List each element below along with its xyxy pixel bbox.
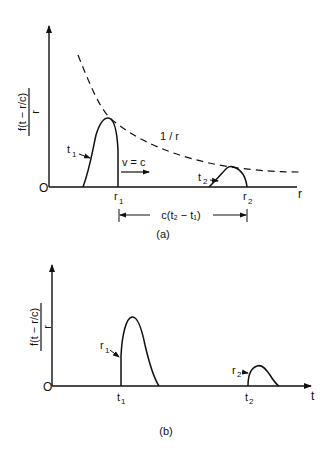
t2-tick-label: t 2 bbox=[245, 391, 254, 406]
svg-text:1: 1 bbox=[121, 397, 126, 406]
svg-text:r: r bbox=[232, 364, 236, 376]
panel-b: f(t − r/c) r O t r 1 t 1 r 2 t 2 (b) bbox=[28, 265, 315, 437]
svg-text:2: 2 bbox=[237, 370, 242, 379]
velocity-label: v = c bbox=[122, 156, 146, 168]
svg-text:1: 1 bbox=[105, 346, 110, 355]
panel-a-caption: (a) bbox=[156, 228, 169, 240]
svg-text:1: 1 bbox=[72, 150, 77, 159]
pulse-b2 bbox=[248, 366, 279, 386]
pulse-a2 bbox=[209, 166, 247, 187]
svg-text:t: t bbox=[198, 171, 201, 183]
panel-b-x-label: t bbox=[311, 389, 315, 403]
svg-text:f(t − r/c): f(t − r/c) bbox=[16, 93, 28, 131]
pulse-a1 bbox=[83, 118, 118, 187]
svg-text:r: r bbox=[100, 339, 104, 351]
panel-a-y-label: f(t − r/c) r bbox=[16, 88, 41, 136]
svg-text:2: 2 bbox=[203, 177, 208, 186]
r2-tick-label: r 2 bbox=[243, 190, 253, 206]
pulse-a1-time-label: t 1 bbox=[67, 143, 90, 159]
inverse-r-envelope bbox=[78, 55, 300, 172]
panel-b-y-label: f(t − r/c) r bbox=[28, 303, 53, 351]
svg-text:2: 2 bbox=[249, 397, 254, 406]
svg-text:t: t bbox=[117, 391, 120, 403]
envelope-label: 1 / r bbox=[160, 130, 179, 142]
svg-text:c(t₂ − t₁): c(t₂ − t₁) bbox=[161, 209, 200, 221]
panel-a-x-label: r bbox=[298, 187, 302, 201]
svg-text:f(t − r/c): f(t − r/c) bbox=[28, 308, 40, 346]
pulse-b1 bbox=[121, 317, 159, 386]
pulse-a2-time-label: t 2 bbox=[198, 171, 218, 186]
panel-a-origin-label: O bbox=[39, 181, 48, 195]
svg-text:2: 2 bbox=[248, 197, 253, 206]
svg-text:1: 1 bbox=[119, 197, 124, 206]
svg-text:r: r bbox=[41, 325, 53, 329]
panel-b-caption: (b) bbox=[159, 425, 172, 437]
pulse-b2-position-label: r 2 bbox=[232, 364, 248, 379]
wave-propagation-diagram: f(t − r/c) r O r 1 / r t 1 v = c r 1 t 2 bbox=[0, 0, 327, 455]
svg-text:t: t bbox=[245, 391, 248, 403]
svg-text:t: t bbox=[67, 143, 70, 155]
panel-b-origin-label: O bbox=[43, 380, 52, 394]
svg-text:r: r bbox=[29, 110, 41, 114]
r1-tick-label: r 1 bbox=[114, 190, 124, 206]
svg-text:r: r bbox=[243, 190, 247, 202]
distance-dimension: c(t₂ − t₁) bbox=[119, 209, 247, 222]
panel-a: f(t − r/c) r O r 1 / r t 1 v = c r 1 t 2 bbox=[16, 26, 302, 240]
svg-text:r: r bbox=[114, 190, 118, 202]
pulse-b1-position-label: r 1 bbox=[100, 339, 119, 357]
t1-tick-label: t 1 bbox=[117, 391, 126, 406]
